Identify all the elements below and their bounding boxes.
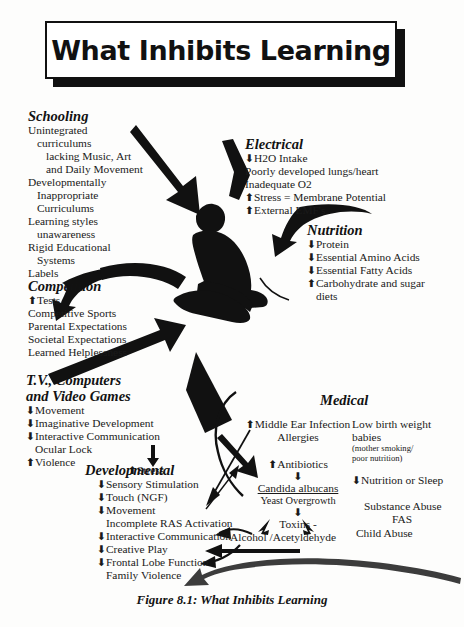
list-item: Inappropriate	[28, 189, 143, 202]
arrow-down-icon: ⬇	[97, 531, 106, 542]
node-medical-heading: Medical	[320, 392, 368, 408]
list-item: lacking Music, Art	[28, 150, 143, 163]
list-item: ⬇Essential Amino Acids	[307, 251, 425, 264]
list-item: Inadequate O2	[245, 178, 386, 191]
arrow-down-icon: ⬇	[307, 265, 316, 276]
list-item: ⬇Sensory Stimulation	[97, 478, 233, 491]
nutrition-or-sleep-row: ⬇Nutrition or Sleep	[352, 474, 443, 487]
node-nutrition: Nutrition ⬇Protein ⬇Essential Amino Acid…	[307, 222, 425, 303]
right-col-gap-2	[352, 488, 443, 500]
arrow-developmental-wedge	[186, 352, 232, 433]
toxin-split-arrows	[228, 518, 348, 538]
low-birth-note-line2: poor nutrition)	[352, 454, 443, 464]
chain-arrow-down-1: ⬇	[228, 471, 368, 482]
list-item: ⬇Interactive Communication	[26, 430, 160, 443]
list-item: ⬆Tests	[28, 294, 127, 307]
arrow-up-icon: ⬆	[245, 205, 254, 216]
arrow-up-icon: ⬆	[28, 295, 37, 306]
chain-arrow-down-2: ⬇	[228, 507, 368, 518]
node-developmental-list: ⬇Sensory Stimulation ⬇Touch (NGF) ⬇Movem…	[85, 478, 233, 582]
node-schooling-heading: Schooling	[28, 108, 143, 124]
low-birth-weight-line1: Low birth weight	[352, 418, 443, 431]
arrow-down-icon: ⬇	[307, 239, 316, 250]
arrow-up-icon: ⬆	[268, 459, 277, 470]
list-item: curriculums	[28, 137, 143, 150]
node-competition-heading: Competition	[28, 278, 127, 294]
arrow-up-icon: ⬆	[246, 419, 255, 430]
arrow-down-icon: ⬇	[97, 505, 106, 516]
list-item: Poorly developed lungs/heart	[245, 165, 386, 178]
fas: FAS	[352, 513, 443, 527]
central-figure-silhouette	[174, 204, 268, 323]
list-item: ⬇Touch (NGF)	[97, 491, 233, 504]
list-item: Family Violence	[97, 569, 233, 582]
list-item: diets	[307, 290, 425, 303]
arrow-up-icon: ⬆	[26, 457, 35, 468]
list-item: Curriculums	[28, 202, 143, 215]
list-item: Systems	[28, 254, 143, 267]
list-item: ⬇Imaginative Development	[26, 417, 160, 430]
node-competition-list: ⬆Tests Competitive Sports Parental Expec…	[28, 294, 127, 359]
list-item: and Daily Movement	[28, 163, 143, 176]
list-item: ⬇Frontal Lobe Function	[97, 556, 233, 569]
figure-page: What Inhibits Learning	[0, 0, 464, 627]
node-competition: Competition ⬆Tests Competitive Sports Pa…	[28, 278, 127, 359]
list-item: ⬆External EMF's	[245, 204, 386, 217]
list-item: Societal Expectations	[28, 333, 127, 346]
node-medical-heading-wrap: Medical	[320, 392, 368, 408]
list-item: Learning styles	[28, 215, 143, 228]
page-title: What Inhibits Learning	[51, 35, 391, 66]
node-schooling: Schooling Unintegrated curriculums lacki…	[28, 108, 143, 280]
arrow-nutrition-hook	[260, 278, 289, 300]
node-electrical: Electrical ⬇H2O Intake Poorly developed …	[245, 136, 386, 217]
list-item: ⬇Movement	[97, 504, 233, 517]
list-item: ⬇Creative Play	[97, 543, 233, 556]
arrow-down-icon: ⬇	[26, 431, 35, 442]
arrow-down-icon: ⬇	[97, 557, 106, 568]
list-item: unawareness	[28, 228, 143, 241]
arrow-down-icon: ⬇	[352, 475, 361, 486]
node-electrical-heading: Electrical	[245, 136, 386, 152]
chain-gap-1	[228, 444, 368, 458]
list-item: ⬆Stress = Membrane Potential	[245, 191, 386, 204]
arrow-down-icon: ⬇	[97, 492, 106, 503]
node-tv-heading-line1: T.V., Computers	[26, 372, 160, 388]
node-developmental: Developmental ⬇Sensory Stimulation ⬇Touc…	[85, 462, 233, 582]
arrow-down-icon: ⬇	[307, 252, 316, 263]
node-medical-right: Low birth weight babies (mother smoking/…	[352, 418, 443, 541]
node-tv-computers: T.V., Computers and Video Games ⬇Movemen…	[26, 372, 160, 469]
list-item: ⬇Interactive Communication	[97, 530, 233, 543]
list-item: Developmentally	[28, 176, 143, 189]
node-developmental-heading: Developmental	[85, 462, 233, 478]
title-banner: What Inhibits Learning	[45, 21, 397, 79]
arrow-up-icon: ⬆	[307, 278, 316, 289]
arrow-up-icon: ⬆	[245, 192, 254, 203]
medical-middle-ear-row: ⬆Middle Ear Infection	[228, 418, 368, 431]
list-item: Competitive Sports	[28, 307, 127, 320]
list-item: ⬆Carbohydrate and sugar	[307, 277, 425, 290]
arrow-toxin-right	[302, 519, 314, 535]
child-abuse: Child Abuse	[352, 527, 443, 541]
arrow-down-icon: ⬇	[26, 405, 35, 416]
medical-allergies: Allergies	[228, 431, 368, 444]
figure-caption: Figure 8.1: What Inhibits Learning	[0, 592, 464, 608]
node-tv-heading-line2: and Video Games	[26, 388, 160, 404]
list-item: Parental Expectations	[28, 320, 127, 333]
node-tv-list: ⬇Movement ⬇Imaginative Development ⬇Inte…	[26, 404, 160, 469]
list-item: Ocular Lock	[26, 443, 160, 456]
list-item: ⬇H2O Intake	[245, 152, 386, 165]
substance-abuse: Substance Abuse	[352, 500, 443, 514]
right-col-gap	[352, 463, 443, 474]
node-nutrition-heading: Nutrition	[307, 222, 425, 238]
arrow-down-icon: ⬇	[97, 479, 106, 490]
node-medical-chain: ⬆Middle Ear Infection Allergies ⬆Antibio…	[228, 418, 368, 532]
node-electrical-list: ⬇H2O Intake Poorly developed lungs/heart…	[245, 152, 386, 217]
list-item: Unintegrated	[28, 124, 143, 137]
list-item: Rigid Educational	[28, 241, 143, 254]
list-item: Learned Helplessness	[28, 346, 127, 359]
node-nutrition-list: ⬇Protein ⬇Essential Amino Acids ⬇Essenti…	[307, 238, 425, 303]
arrow-down-icon: ⬇	[97, 544, 106, 555]
arrow-down-icon: ⬇	[26, 418, 35, 429]
list-item: ⬇Protein	[307, 238, 425, 251]
medical-candida: Candida albucans	[228, 482, 368, 495]
